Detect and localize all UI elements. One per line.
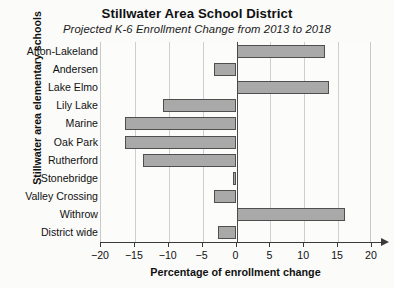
x-tick <box>168 243 169 247</box>
plot-area <box>100 42 371 242</box>
bar <box>214 63 236 76</box>
x-axis-line <box>100 242 383 243</box>
x-axis-arrow-icon <box>381 238 389 246</box>
chart-title: Stillwater Area School District <box>0 6 394 21</box>
category-label: Withrow <box>0 209 98 220</box>
x-tick <box>236 243 237 247</box>
category-label: Lily Lake <box>0 100 98 111</box>
bar <box>125 136 237 149</box>
bar <box>237 208 345 221</box>
category-label: Andersen <box>0 64 98 75</box>
x-tick <box>100 243 101 247</box>
bar <box>218 226 236 239</box>
bar <box>237 45 325 58</box>
category-label: Rutherford <box>0 155 98 166</box>
x-tick <box>269 243 270 247</box>
chart-subtitle: Projected K-6 Enrollment Change from 201… <box>0 23 394 35</box>
bar <box>237 81 330 94</box>
x-axis-title: Percentage of enrollment change <box>100 266 371 278</box>
x-tick <box>134 243 135 247</box>
category-label: District wide <box>0 227 98 238</box>
x-tick <box>303 243 304 247</box>
x-tick <box>337 243 338 247</box>
category-label-group: Afton-LakelandAndersenLake ElmoLily Lake… <box>0 42 98 242</box>
category-label: Valley Crossing <box>0 191 98 202</box>
x-tick <box>371 243 372 247</box>
zero-axis-line <box>237 42 238 242</box>
x-tick-label: 20 <box>351 249 391 261</box>
chart-figure: Stillwater Area School District Projecte… <box>0 0 394 288</box>
bar <box>125 117 237 130</box>
category-label: Lake Elmo <box>0 82 98 93</box>
category-label: Marine <box>0 118 98 129</box>
category-label: Stonebridge <box>0 173 98 184</box>
bar <box>163 99 236 112</box>
x-tick <box>202 243 203 247</box>
category-label: Oak Park <box>0 137 98 148</box>
category-label: Afton-Lakeland <box>0 46 98 57</box>
bar <box>143 154 236 167</box>
bar <box>214 190 236 203</box>
